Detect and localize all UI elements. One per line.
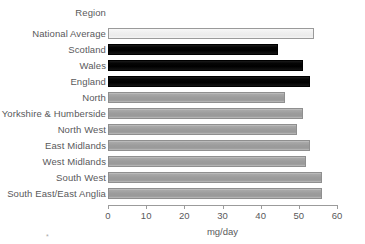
category-axis-title: Region — [0, 7, 106, 18]
bar — [108, 188, 322, 199]
x-axis-tick-label: 10 — [131, 210, 161, 221]
x-axis-tick — [337, 205, 338, 209]
bar-row: National Average — [0, 27, 365, 43]
bar — [108, 60, 303, 71]
bar-row: East Midlands — [0, 139, 365, 155]
bar-category-label: East Midlands — [45, 139, 106, 152]
x-axis-tick — [108, 205, 109, 209]
x-axis-tick-label: 30 — [208, 210, 238, 221]
bar-category-label: Yorkshire & Humberside — [2, 107, 106, 120]
bar-row: Yorkshire & Humberside — [0, 107, 365, 123]
bar-chart-figure: Region National AverageScotlandWalesEngl… — [0, 0, 365, 244]
bar — [108, 92, 285, 103]
bar-row: Scotland — [0, 43, 365, 59]
plot-area: National AverageScotlandWalesEnglandNort… — [0, 27, 365, 205]
bar-category-label: North West — [58, 123, 106, 136]
x-axis-tick — [299, 205, 300, 209]
bar-row: Wales — [0, 59, 365, 75]
bar — [108, 28, 314, 39]
bar-category-label: South East/East Anglia — [7, 187, 106, 200]
footnote-marker: * — [46, 233, 49, 240]
x-axis-tick — [223, 205, 224, 209]
bar-row: England — [0, 75, 365, 91]
bar — [108, 76, 310, 87]
x-axis-tick-label: 20 — [169, 210, 199, 221]
x-axis-label: mg/day — [108, 226, 337, 237]
bar-category-label: South West — [56, 171, 106, 184]
bar — [108, 156, 306, 167]
x-axis-tick-label: 60 — [322, 210, 352, 221]
x-axis-tick — [184, 205, 185, 209]
bar-row: South East/East Anglia — [0, 187, 365, 203]
x-axis-tick — [146, 205, 147, 209]
bar — [108, 44, 278, 55]
bar-category-label: England — [70, 75, 106, 88]
bar-row: South West — [0, 171, 365, 187]
x-axis-tick-label: 40 — [246, 210, 276, 221]
x-axis-tick-label: 0 — [93, 210, 123, 221]
bar-row: North West — [0, 123, 365, 139]
bar — [108, 124, 297, 135]
bar-category-label: Wales — [79, 59, 106, 72]
bar-category-label: West Midlands — [43, 155, 106, 168]
bar-category-label: National Average — [32, 27, 106, 40]
bar-category-label: North — [82, 91, 106, 104]
bar — [108, 140, 310, 151]
x-axis-tick-label: 50 — [284, 210, 314, 221]
bar-row: West Midlands — [0, 155, 365, 171]
bar-row: North — [0, 91, 365, 107]
bar — [108, 172, 322, 183]
x-axis-tick — [261, 205, 262, 209]
bar-category-label: Scotland — [68, 43, 106, 56]
bar — [108, 108, 303, 119]
